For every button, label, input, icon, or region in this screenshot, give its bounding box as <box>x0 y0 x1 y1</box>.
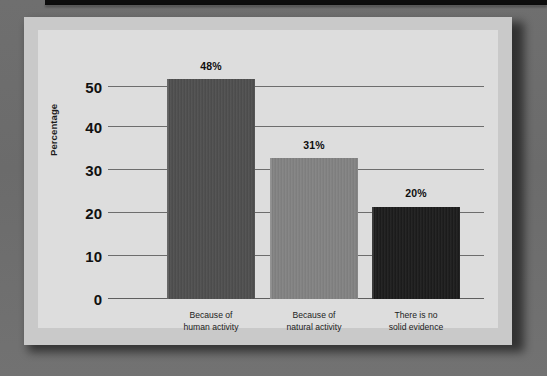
gridline-55 <box>108 86 484 87</box>
x-tick-label-3: There is no solid evidence <box>353 310 479 333</box>
bar-highlight <box>270 158 272 299</box>
figure-card: Percentage 50 40 30 20 10 0 <box>24 17 512 345</box>
gridline-45 <box>108 126 484 127</box>
bar-value-label-2: 31% <box>270 139 358 151</box>
bar-because-of-natural-activity[interactable] <box>270 158 358 299</box>
y-axis-title: Percentage <box>48 142 59 156</box>
bar-texture <box>372 207 460 299</box>
y-tick-20: 20 <box>62 206 102 221</box>
bar-there-is-no-solid-evidence[interactable] <box>372 207 460 299</box>
bar-chart: Percentage 50 40 30 20 10 0 <box>38 30 498 328</box>
bar-highlight <box>167 79 169 299</box>
page-top-band <box>45 0 547 5</box>
bar-texture <box>270 158 358 299</box>
bar-value-label-3: 20% <box>372 187 460 199</box>
bar-highlight <box>372 207 374 299</box>
y-tick-10: 10 <box>62 249 102 264</box>
y-tick-50: 50 <box>62 80 102 95</box>
chart-panel: Percentage 50 40 30 20 10 0 <box>38 30 498 328</box>
page-background: Percentage 50 40 30 20 10 0 <box>0 0 547 376</box>
y-tick-40: 40 <box>62 120 102 135</box>
y-tick-0: 0 <box>62 292 102 307</box>
bar-value-label-1: 48% <box>167 60 255 72</box>
bar-because-of-human-activity[interactable] <box>167 79 255 299</box>
bar-texture <box>167 79 255 299</box>
y-tick-30: 30 <box>62 163 102 178</box>
